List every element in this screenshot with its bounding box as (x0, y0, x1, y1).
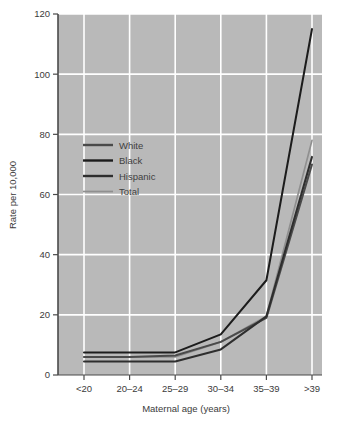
chart-figure: 020406080100120 <2020–2425–2930–3435–39>… (0, 0, 339, 430)
y-axis-title: Rate per 10,000 (7, 161, 18, 229)
x-tick-label: >39 (304, 383, 320, 394)
legend-label-hispanic: Hispanic (119, 171, 156, 182)
x-tick-label: 35–39 (253, 383, 279, 394)
y-tick-label: 0 (45, 369, 50, 380)
y-tick-label: 20 (39, 309, 50, 320)
legend-label-total: Total (119, 186, 139, 197)
x-tick-label: <20 (76, 383, 92, 394)
y-tick-label: 80 (39, 129, 50, 140)
x-tick-label: 25–29 (162, 383, 188, 394)
legend-label-white: White (119, 140, 143, 151)
x-axis-title: Maternal age (years) (142, 403, 230, 414)
y-tick-label: 100 (34, 69, 50, 80)
y-tick-label: 120 (34, 8, 50, 19)
x-tick-label: 30–34 (208, 383, 234, 394)
line-chart: 020406080100120 <2020–2425–2930–3435–39>… (0, 0, 339, 430)
legend-label-black: Black (119, 155, 142, 166)
y-tick-label: 60 (39, 189, 50, 200)
x-tick-label: 20–24 (116, 383, 142, 394)
y-tick-label: 40 (39, 249, 50, 260)
